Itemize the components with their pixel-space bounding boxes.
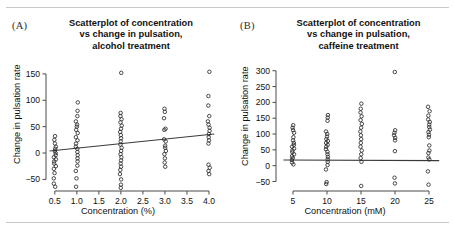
- panel-b-letter: (B): [240, 20, 255, 31]
- data-point: [75, 177, 79, 181]
- data-point: [119, 178, 123, 182]
- data-point: [359, 184, 363, 188]
- x-tick-label: 0.5: [49, 196, 61, 206]
- data-point: [427, 135, 431, 139]
- data-point: [360, 149, 364, 153]
- data-point: [76, 109, 80, 113]
- panel-b: (B) Scatterplot of concentration vs chan…: [228, 14, 455, 219]
- panel-a: (A) Scatterplot of concentration vs chan…: [0, 14, 228, 219]
- data-point: [427, 183, 431, 187]
- x-tick-label: 10: [322, 196, 332, 206]
- data-point: [52, 167, 56, 171]
- y-tick-label: 100: [26, 95, 41, 105]
- data-point: [359, 118, 363, 122]
- panel-b-y-axis-label: Change in pulsation rate: [240, 66, 250, 166]
- data-point: [393, 149, 397, 153]
- panel-b-plot-area: −50050100150200250300510152025: [228, 58, 455, 218]
- data-point: [53, 134, 57, 138]
- data-point: [207, 94, 211, 98]
- y-tick-label: 300: [256, 66, 271, 76]
- x-tick-label: 25: [424, 196, 434, 206]
- data-point: [359, 137, 363, 141]
- y-tick-label: 150: [256, 113, 271, 123]
- x-tick-label: 3.5: [181, 196, 193, 206]
- data-point: [163, 152, 167, 156]
- data-point: [162, 116, 166, 120]
- x-tick-label: 4.0: [203, 196, 215, 206]
- data-point: [74, 169, 78, 173]
- data-point: [428, 144, 432, 148]
- data-point: [359, 107, 363, 111]
- x-tick-label: 2.5: [137, 196, 149, 206]
- panel-a-title-line-3: alcohol treatment: [40, 41, 222, 52]
- x-tick-label: 15: [356, 196, 366, 206]
- x-tick-label: 2.0: [115, 196, 127, 206]
- data-point: [359, 130, 363, 134]
- data-point: [324, 168, 328, 172]
- panel-a-title: Scatterplot of concentration vs change i…: [40, 18, 222, 52]
- data-point: [360, 115, 364, 119]
- top-rule: [6, 7, 449, 8]
- panel-b-scatter-svg: −50050100150200250300510152025: [228, 58, 455, 218]
- data-point: [53, 171, 57, 175]
- data-point: [52, 177, 56, 181]
- data-point: [393, 182, 397, 186]
- x-tick-label: 1.5: [93, 196, 105, 206]
- data-point: [207, 104, 211, 108]
- y-tick-label: −50: [255, 177, 270, 187]
- y-tick-label: 50: [30, 122, 40, 132]
- data-point: [74, 185, 78, 189]
- y-tick-label: −50: [25, 174, 40, 184]
- panel-a-x-axis-label: Concentration (%): [18, 206, 218, 216]
- panel-b-x-axis-label: Concentration (mM): [246, 206, 444, 216]
- data-point: [207, 114, 211, 118]
- data-point: [53, 138, 57, 142]
- data-point: [393, 139, 397, 143]
- data-point: [119, 71, 123, 75]
- data-point: [359, 134, 363, 138]
- data-point: [76, 164, 80, 168]
- data-point: [76, 114, 80, 118]
- data-point: [359, 153, 363, 157]
- data-point: [53, 185, 57, 189]
- x-tick-label: 1.0: [71, 196, 83, 206]
- y-tick-label: 200: [256, 97, 271, 107]
- y-tick-label: 0: [35, 148, 40, 158]
- data-point: [163, 161, 167, 165]
- panel-a-y-axis-label: Change in pulsation rate: [12, 64, 22, 164]
- panel-b-title-line-1: Scatterplot of concentration: [268, 18, 449, 29]
- data-point: [428, 110, 432, 114]
- y-tick-label: 100: [256, 129, 271, 139]
- y-tick-label: 250: [256, 82, 271, 92]
- y-tick-label: 150: [26, 69, 41, 79]
- x-tick-label: 20: [390, 196, 400, 206]
- data-point: [359, 141, 363, 145]
- data-point: [426, 105, 430, 109]
- data-point: [359, 111, 363, 115]
- data-point: [360, 122, 364, 126]
- panel-a-scatter-svg: −500501001500.51.01.52.02.53.03.54.0: [0, 58, 228, 218]
- panel-a-letter: (A): [12, 20, 27, 31]
- data-point: [426, 170, 430, 174]
- panel-a-title-line-2: vs change in pulsation,: [40, 29, 222, 40]
- data-point: [393, 70, 397, 74]
- data-point: [359, 145, 363, 149]
- panel-a-plot-area: −500501001500.51.01.52.02.53.03.54.0: [0, 58, 228, 218]
- panel-a-title-line-1: Scatterplot of concentration: [40, 18, 222, 29]
- y-tick-label: 0: [265, 161, 270, 171]
- data-point: [118, 172, 122, 176]
- panel-b-title: Scatterplot of concentration vs change i…: [268, 18, 449, 52]
- panel-b-title-line-3: caffeine treatment: [268, 41, 449, 52]
- data-point: [427, 114, 431, 118]
- y-tick-label: 50: [260, 145, 270, 155]
- data-point: [393, 176, 397, 180]
- x-tick-label: 3.0: [159, 196, 171, 206]
- data-point: [360, 102, 364, 106]
- bottom-rule: [6, 222, 449, 223]
- data-point: [76, 101, 80, 105]
- data-point: [359, 126, 363, 130]
- data-point: [76, 131, 80, 135]
- data-point: [163, 165, 167, 169]
- x-tick-label: 5: [291, 196, 296, 206]
- data-point: [208, 70, 212, 74]
